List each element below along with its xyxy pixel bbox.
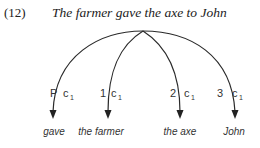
arc-john <box>143 31 235 112</box>
arrowhead-the-farmer <box>105 110 112 119</box>
arrowhead-the-axe <box>177 110 184 119</box>
arc-case-3: c <box>232 87 238 99</box>
arc-sub-p: 1 <box>70 94 74 101</box>
dependency-diagram: P c 1 1 c 1 2 c 1 3 c 1 <box>0 0 260 148</box>
arc-case-2: c <box>184 87 190 99</box>
arc-sub-1: 1 <box>118 94 122 101</box>
arc-the-farmer <box>108 31 143 112</box>
arc-sub-2: 1 <box>191 94 195 101</box>
arc-label-1: 1 <box>100 87 106 99</box>
arc-case-1: c <box>111 87 117 99</box>
arc-case-p: c <box>63 87 69 99</box>
arc-label-3: 3 <box>217 87 223 99</box>
arc-label-2: 2 <box>170 87 176 99</box>
arc-label-p: P <box>50 87 57 99</box>
arc-the-axe <box>143 31 180 112</box>
word-john: John <box>223 126 245 137</box>
arrowhead-gave <box>50 110 57 119</box>
arc-sub-3: 1 <box>239 94 243 101</box>
word-the-axe: the axe <box>164 126 197 137</box>
word-the-farmer: the farmer <box>78 126 124 137</box>
arc-gave <box>53 31 143 112</box>
word-gave: gave <box>43 126 65 137</box>
arrowhead-john <box>232 110 239 119</box>
